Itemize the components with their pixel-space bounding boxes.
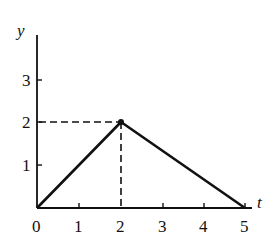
x-tick-label-3: 3 [158, 217, 167, 236]
x-axis-label: t [257, 193, 263, 212]
x-tick-label-2: 2 [116, 217, 125, 236]
y-tick-label-2: 2 [22, 113, 31, 132]
peak-marker [118, 119, 124, 125]
data-line [37, 122, 245, 208]
x-tick-label-1: 1 [74, 217, 83, 236]
x-tick-label-0: 0 [32, 217, 41, 236]
x-tick-label-5: 5 [240, 217, 249, 236]
y-tick-label-3: 3 [22, 71, 31, 90]
x-tick-label-4: 4 [199, 217, 208, 236]
y-axis-label: y [15, 21, 25, 40]
y-tick-label-1: 1 [22, 156, 31, 175]
chart: 1 2 3 0 1 2 3 4 5 y t [0, 0, 278, 245]
